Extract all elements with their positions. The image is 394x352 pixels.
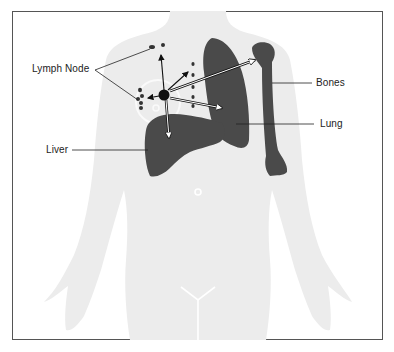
label-liver: Liver [46,144,68,155]
label-bones: Bones [316,77,345,88]
label-lymph-node: Lymph Node [32,63,89,74]
body-illustration [0,0,394,352]
body-silhouette [44,11,352,340]
primary-tumor [159,90,170,101]
diagram-stage: Lymph Node Bones Lung Liver [0,0,394,352]
label-lung: Lung [320,118,343,129]
